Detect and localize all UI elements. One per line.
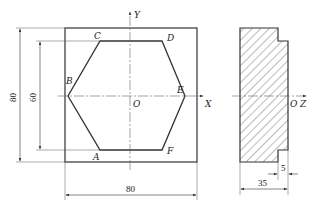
side-view: O Z 5 35 — [232, 28, 307, 195]
dim-thickness: 35 — [258, 178, 268, 188]
label-origin-o: O — [133, 99, 141, 109]
dim-inner-height: 60 — [28, 93, 38, 103]
dim-outer-height: 80 — [8, 93, 18, 103]
label-point-b: B — [65, 76, 73, 86]
label-point-f: F — [166, 146, 174, 156]
label-point-d: D — [166, 33, 174, 43]
technical-drawing: 80 60 80 C D E F A B O X Y O Z 5 — [0, 0, 317, 212]
label-point-c: C — [94, 31, 101, 41]
label-axis-x: X — [204, 99, 212, 109]
label-side-origin-o: O — [290, 99, 298, 109]
side-section-hatched — [240, 28, 288, 162]
hexagon-profile — [68, 41, 185, 150]
label-axis-z: Z — [299, 99, 307, 109]
label-point-e: E — [176, 85, 184, 95]
dim-step: 5 — [281, 163, 286, 173]
outer-square — [65, 28, 197, 162]
label-point-a: A — [92, 152, 100, 162]
dim-outer-width: 80 — [126, 184, 136, 194]
label-axis-y: Y — [134, 10, 141, 20]
front-view: 80 60 80 C D E F A B O X Y — [8, 10, 212, 200]
